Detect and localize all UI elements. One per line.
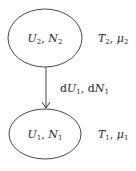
top-node-side-label: T2, μ2 [98, 32, 128, 46]
diagram-canvas: U2, N2 T2, μ2 dU1, dN1 U1, N1 T1, μ1 [0, 0, 136, 171]
bottom-node-side-label: T1, μ1 [98, 128, 128, 142]
top-node-label: U2, N2 [28, 32, 63, 46]
bottom-node-label: U1, N1 [28, 128, 63, 142]
flow-arrow-label: dU1, dN1 [60, 82, 109, 96]
